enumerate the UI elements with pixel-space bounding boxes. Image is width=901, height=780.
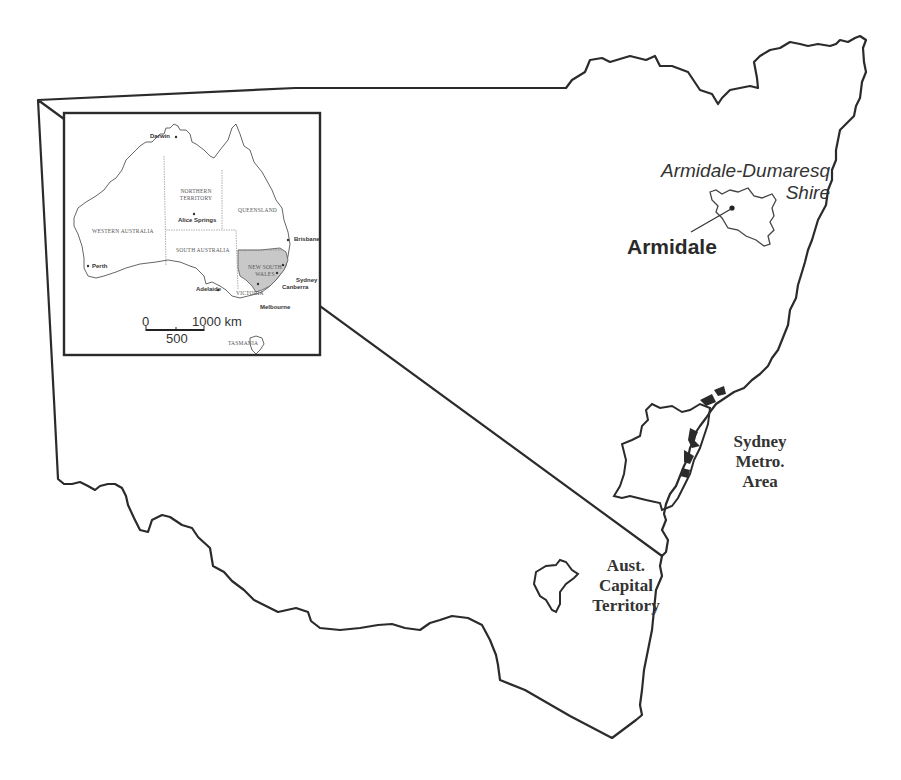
inset-label-vic: VICTORIA	[236, 290, 264, 297]
inset-label-sa: SOUTH AUSTRALIA	[176, 247, 230, 254]
map-figure: Armidale-Dumaresq Shire Armidale Sydney …	[0, 0, 901, 780]
shire-label-line2: Shire	[652, 182, 830, 204]
inset-city-adelaide: Adelaide	[196, 286, 221, 292]
nsw-map	[0, 0, 901, 780]
sydney-label-line2: Metro.	[718, 452, 802, 472]
inset-city-canberra: Canberra	[282, 284, 308, 290]
inset-city-darwin: Darwin	[150, 133, 170, 139]
inset-city-perth: Perth	[92, 263, 107, 269]
inset-city-sydney: Sydney	[296, 277, 317, 283]
inset-city-brisbane: Brisbane	[294, 236, 320, 242]
inset-label-nt: NORTHERN TERRITORY	[174, 188, 218, 202]
act-label-line2: Capital	[578, 576, 674, 596]
sydney-label-line1: Sydney	[718, 432, 802, 452]
nt-line2: TERRITORY	[174, 195, 218, 202]
act-label: Aust. Capital Territory	[578, 556, 674, 616]
inset-city-melbourne: Melbourne	[260, 304, 290, 310]
armidale-leader-line	[691, 209, 731, 232]
act-label-line1: Aust.	[578, 556, 674, 576]
shire-label-line1: Armidale-Dumaresq	[652, 160, 830, 182]
inset-city-alice: Alice Springs	[178, 217, 216, 223]
armidale-label: Armidale	[627, 235, 717, 259]
act-outline	[534, 560, 578, 612]
inset-label-nsw: NEW SOUTH WALES	[248, 264, 282, 278]
sydney-metro-outline	[614, 404, 710, 510]
nsw-line1: NEW SOUTH	[248, 264, 282, 271]
sydney-metro-label: Sydney Metro. Area	[718, 432, 802, 492]
sydney-label-line3: Area	[718, 472, 802, 492]
scale-mid: 500	[166, 331, 188, 346]
scale-max: 1000 km	[192, 314, 242, 329]
scale-zero: 0	[142, 314, 149, 329]
inset-label-tas: TASMANIA	[228, 340, 258, 347]
nsw-line2: WALES	[248, 271, 282, 278]
inset-label-qld: QUEENSLAND	[238, 207, 277, 214]
inset-label-wa: WESTERN AUSTRALIA	[92, 228, 154, 235]
act-label-line3: Territory	[578, 596, 674, 616]
shire-label: Armidale-Dumaresq Shire	[652, 160, 830, 204]
nt-line1: NORTHERN	[174, 188, 218, 195]
